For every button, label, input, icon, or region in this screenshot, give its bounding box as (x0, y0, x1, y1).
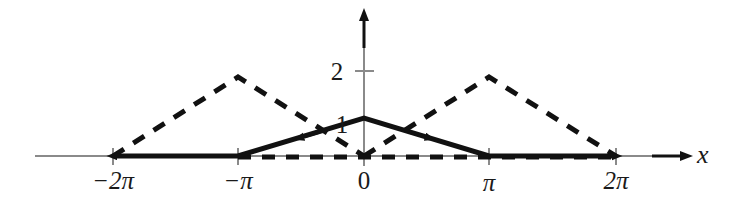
plot-figure: −2π −π 0 π 2π 2 1 x (0, 0, 739, 208)
plot-canvas (0, 0, 739, 208)
dashed-triangle-right (364, 77, 616, 156)
dashed-triangle-left (113, 77, 364, 156)
axis-group (35, 20, 681, 166)
